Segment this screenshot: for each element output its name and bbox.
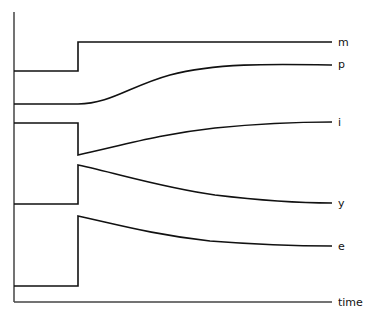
series-label-e: e (338, 241, 345, 252)
series-label-m: m (338, 37, 349, 48)
series-path-m (14, 42, 332, 71)
series-label-i: i (338, 117, 341, 128)
series-path-y (14, 165, 332, 204)
series-label-p: p (338, 59, 345, 70)
figure-container: m p i y e time (0, 0, 370, 314)
x-axis-label: time (338, 297, 363, 308)
series-path-i (14, 122, 332, 155)
impulse-response-chart (0, 0, 370, 314)
series-path-e (14, 216, 332, 286)
series-label-y: y (338, 198, 345, 209)
